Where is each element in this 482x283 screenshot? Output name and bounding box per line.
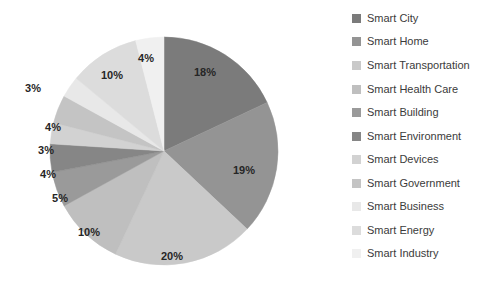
legend-swatch-icon [352, 37, 361, 46]
legend-swatch-icon [352, 249, 361, 258]
pie-plot-area: 18%19%20%10%5%4%3%4%3%10%4% [0, 0, 340, 283]
legend-item-label: Smart Health Care [367, 84, 458, 95]
legend-item-label: Smart Government [367, 178, 460, 189]
pie-slice-label: 3% [25, 83, 41, 94]
legend-swatch-icon [352, 202, 361, 211]
legend-item[interactable]: Smart Energy [352, 223, 434, 237]
pie-slice-label: 19% [233, 165, 255, 176]
legend-swatch-icon [352, 179, 361, 188]
pie-slice-label: 10% [78, 227, 100, 238]
legend-item-label: Smart Business [367, 201, 444, 212]
pie-slice-label: 4% [40, 169, 56, 180]
pie-slice-label: 3% [38, 145, 54, 156]
legend-swatch-icon [352, 226, 361, 235]
pie-slice-label: 10% [101, 70, 123, 81]
legend-item[interactable]: Smart Industry [352, 246, 439, 260]
legend-item[interactable]: Smart Devices [352, 152, 439, 166]
legend-item-label: Smart Environment [367, 131, 461, 142]
legend-item-label: Smart Industry [367, 248, 439, 259]
legend-item[interactable]: Smart Building [352, 105, 439, 119]
pie-slice-label: 5% [52, 193, 68, 204]
chart-legend: Smart CitySmart HomeSmart Transportation… [352, 0, 482, 283]
pie-chart: 18%19%20%10%5%4%3%4%3%10%4% Smart CitySm… [0, 0, 482, 283]
legend-item-label: Smart Transportation [367, 60, 470, 71]
legend-item[interactable]: Smart Home [352, 34, 429, 48]
legend-swatch-icon [352, 132, 361, 141]
pie-slice-label: 18% [194, 67, 216, 78]
pie-svg [0, 0, 340, 283]
pie-slice-label: 4% [138, 53, 154, 64]
legend-swatch-icon [352, 108, 361, 117]
legend-swatch-icon [352, 14, 361, 23]
legend-item-label: Smart City [367, 13, 418, 24]
legend-swatch-icon [352, 155, 361, 164]
legend-item-label: Smart Building [367, 107, 439, 118]
legend-item[interactable]: Smart City [352, 11, 418, 25]
legend-item[interactable]: Smart Business [352, 199, 444, 213]
legend-item[interactable]: Smart Government [352, 176, 460, 190]
legend-item[interactable]: Smart Environment [352, 129, 461, 143]
legend-item[interactable]: Smart Health Care [352, 82, 458, 96]
legend-item-label: Smart Devices [367, 154, 439, 165]
legend-item[interactable]: Smart Transportation [352, 58, 470, 72]
legend-swatch-icon [352, 85, 361, 94]
pie-slice-label: 4% [45, 122, 61, 133]
legend-item-label: Smart Energy [367, 225, 434, 236]
pie-slice-label: 20% [161, 251, 183, 262]
legend-item-label: Smart Home [367, 36, 429, 47]
legend-swatch-icon [352, 61, 361, 70]
